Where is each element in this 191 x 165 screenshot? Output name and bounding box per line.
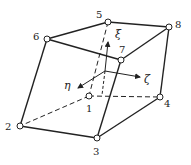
node-label-8: 8 bbox=[175, 20, 181, 30]
axis-label-eta: η bbox=[64, 80, 71, 91]
node-label-1: 1 bbox=[86, 104, 92, 114]
node-label-6: 6 bbox=[33, 32, 39, 42]
node-label-5: 5 bbox=[96, 10, 102, 20]
axis-label-zeta: ζ bbox=[144, 74, 150, 85]
node-label-2: 2 bbox=[5, 122, 11, 132]
node-label-4: 4 bbox=[164, 99, 170, 109]
node-label-7: 7 bbox=[119, 45, 125, 55]
node-label-3: 3 bbox=[93, 147, 99, 157]
hexahedron-diagram: 1 2 3 4 5 6 7 8 ξ η ζ bbox=[0, 0, 191, 165]
element-drawing bbox=[0, 0, 191, 165]
axis-label-xi: ξ bbox=[115, 29, 121, 40]
